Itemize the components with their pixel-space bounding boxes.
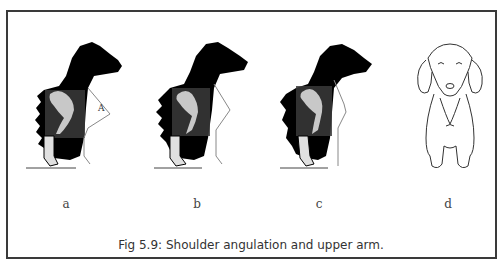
panel-a-illustration: A bbox=[14, 38, 129, 173]
panel-label-a: a bbox=[56, 197, 76, 211]
figure-caption: Fig 5.9: Shoulder angulation and upper a… bbox=[0, 238, 502, 252]
panel-label-d: d bbox=[438, 197, 458, 211]
panel-b-illustration bbox=[140, 38, 255, 173]
panel-d-illustration bbox=[410, 38, 490, 173]
panel-label-c: c bbox=[309, 197, 329, 211]
svg-text:A: A bbox=[97, 103, 105, 113]
panel-label-b: b bbox=[187, 197, 207, 211]
panel-c-illustration bbox=[268, 38, 383, 173]
